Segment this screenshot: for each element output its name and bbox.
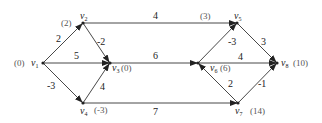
weight-v4-v7: 7 [153,106,158,117]
edge-v4-v3 [83,64,109,103]
weight-v2-v3: -2 [97,36,105,47]
weight-v1-v4: -3 [47,80,55,91]
name-v8: v8 [281,57,288,69]
node-v6 [196,61,199,64]
node-v8 [275,61,278,64]
name-v2: v2 [80,10,87,22]
weight-v6-v5: -3 [228,36,236,47]
weight-v3-v6: 6 [153,50,158,61]
shortest-path-graph: 2 5 -3 -2 4 4 6 7 -3 3 4 2 -1 v1 v2 v3 v… [0,0,322,123]
weight-v7-v8: -1 [258,78,266,89]
edge-v7-v8 [238,64,276,103]
name-v4: v4 [80,105,87,117]
name-v1: v1 [31,57,38,69]
potential-v3: (0) [121,63,132,73]
potential-v4: (-3) [94,105,108,115]
weight-v1-v2: 2 [56,33,61,44]
weight-v4-v3: 4 [100,81,105,92]
weight-v6-v8: 4 [238,51,243,62]
potential-v1: (0) [14,58,25,68]
name-v7: v7 [235,105,242,117]
potential-v8: (10) [293,58,308,68]
potential-v6: (6) [220,63,231,73]
weight-v2-v5: 4 [153,10,158,21]
name-v5: v5 [234,10,241,22]
weight-v1-v3: 5 [74,50,79,61]
potential-v5: (3) [200,11,211,21]
potential-v7: (14) [250,106,265,116]
name-v3: v3 [112,62,119,74]
potential-v2: (2) [61,18,72,28]
name-v6: v6 [210,62,217,74]
weight-v7-v6: 2 [228,78,233,89]
weight-v5-v8: 3 [261,36,266,47]
edges [43,23,276,103]
node-v1 [41,61,44,64]
node-potentials: (0) (2) (0) (-3) (3) (6) (14) (10) [14,11,308,116]
